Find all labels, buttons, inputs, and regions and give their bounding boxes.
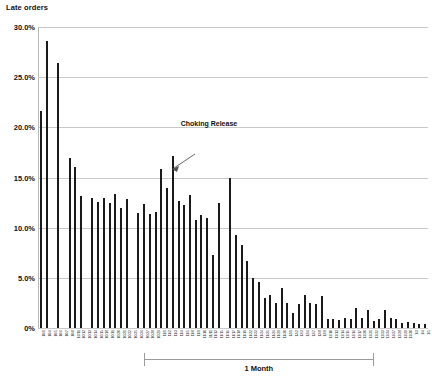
x-tick-label: 10/29 [157,330,161,339]
x-tick-label: 12/1 [289,330,293,337]
bar [212,255,214,328]
x-tick-label: 12/16 [352,330,356,339]
bar [246,261,248,328]
y-tick-label: 25.0% [14,73,35,82]
x-tick-label: 12/2 [295,330,299,337]
bar [264,298,266,328]
bar [143,204,145,328]
x-tick-label: 12/15 [346,330,350,339]
bar [309,303,311,328]
bar [91,198,93,328]
one-month-label: 1 Month [144,364,373,373]
bar [69,158,71,328]
x-tick-label: 10/5 [54,330,58,337]
x-tick-label: 11/12 [214,330,218,338]
bar [344,318,346,328]
x-tick-label: 10/11 [77,330,81,338]
bar [395,319,397,328]
x-tick-label: 10/20 [117,330,121,339]
span-bracket-line [144,359,373,360]
x-tick-label: 11/8 [191,330,195,336]
x-tick-label: 12/14 [341,330,345,339]
x-tick-label: 12/3 [300,330,304,337]
bar [241,245,243,328]
bar [332,319,334,328]
x-tick-label: 1/5 [427,330,431,335]
bar [235,235,237,328]
bar [269,295,271,328]
bar [126,199,128,328]
bar [183,205,185,328]
bar [378,319,380,328]
x-tick-label: 11/4 [180,330,184,336]
x-tick-label: 12/28 [398,330,402,339]
plot-area [38,27,428,328]
y-tick-label: 0% [24,324,35,333]
x-tick-label: 11/16 [226,330,230,338]
bar [304,295,306,328]
chart-title: Late orders [6,3,48,12]
x-tick-label: 12/23 [381,330,385,339]
x-tick-label: 10/7 [65,330,69,337]
x-tick-label: 11/22 [249,330,253,338]
x-tick-label: 11/19 [243,330,247,338]
x-tick-label: 11/15 [220,330,224,338]
bar [120,208,122,328]
x-tick-label: 11/23 [254,330,258,338]
x-tick-label: 11/9 [197,330,201,336]
x-tick-label: 11/30 [283,330,287,338]
x-tick-label: 10/19 [111,330,115,339]
x-tick-label: 11/29 [277,330,281,338]
bar [114,194,116,328]
bar [286,303,288,328]
bar [166,188,168,328]
y-tick-label: 15.0% [14,173,35,182]
bar [206,218,208,328]
x-tick-label: 10/4 [48,330,52,337]
x-tick-label: 10/28 [151,330,155,339]
bar [424,324,426,328]
y-tick-label: 20.0% [14,123,35,132]
bar [315,304,317,328]
x-tick-label: 10/26 [140,330,144,339]
x-tick-label: 10/21 [123,330,127,339]
x-tick-label: 12/29 [404,330,408,339]
x-tick-label: 10/12 [82,330,86,339]
x-axis-labels: 10/110/410/510/610/710/810/1110/1210/131… [38,330,428,356]
bar [103,198,105,328]
bar [367,310,369,328]
x-tick-label: 12/30 [409,330,413,339]
bar [97,202,99,328]
x-tick-label: 12/21 [369,330,373,339]
bar [137,213,139,328]
x-tick-label: 11/5 [186,330,190,336]
choking-release-arrow-icon [167,152,227,192]
y-tick-label: 30.0% [14,23,35,32]
x-tick-label: 10/1 [42,330,46,337]
x-tick-label: 10/6 [59,330,63,337]
x-tick-label: 10/8 [71,330,75,337]
bar [413,323,415,328]
x-tick-label: 12/8 [318,330,322,337]
bar [229,178,231,329]
bar [401,323,403,328]
x-tick-label: 11/17 [232,330,236,338]
bar [338,320,340,328]
bar [298,304,300,328]
bar [189,195,191,328]
x-tick-label: 12/20 [363,330,367,339]
x-tick-label: 12/9 [323,330,327,337]
x-tick-label: 11/25 [266,330,270,338]
bar [281,288,283,328]
x-tick-label: 12/6 [306,330,310,337]
chart-root: Late orders 30.0%25.0%20.0%15.0%10.0%5.0… [0,0,432,387]
bar [321,296,323,328]
bar [200,215,202,328]
x-tick-label: 10/14 [94,330,98,339]
bar [407,322,409,328]
x-tick-label: 12/27 [392,330,396,339]
bar [160,169,162,328]
bar [384,310,386,328]
bar [355,308,357,328]
bar [258,282,260,328]
